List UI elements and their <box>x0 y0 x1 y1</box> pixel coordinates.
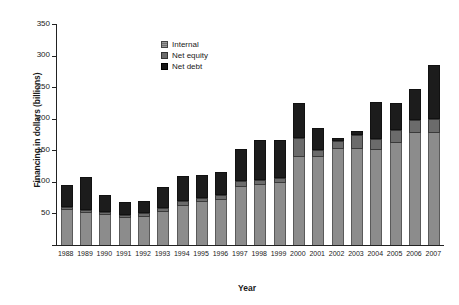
y-tick-label: 50 <box>41 208 50 217</box>
bar-1991 <box>119 202 131 245</box>
x-tick-label-2004: 2004 <box>366 250 385 257</box>
segment-internal <box>157 212 169 245</box>
segment-net-debt <box>99 195 111 213</box>
x-axis-title: Year <box>52 283 442 293</box>
segment-internal <box>196 202 208 245</box>
segment-net-debt <box>215 172 227 195</box>
bar-1988 <box>61 185 73 245</box>
segment-internal <box>215 200 227 245</box>
bar-2004 <box>370 102 382 245</box>
segment-net-equity <box>409 120 421 133</box>
bar-2005 <box>390 103 402 245</box>
x-tick-label-1995: 1995 <box>191 250 210 257</box>
legend-item-net-debt: Net debt <box>161 62 208 71</box>
segment-internal <box>177 206 189 245</box>
x-tick-label-1997: 1997 <box>230 250 249 257</box>
bar-2006 <box>409 89 421 245</box>
bar-2001 <box>312 128 324 245</box>
x-tick-label-2001: 2001 <box>308 250 327 257</box>
segment-internal <box>312 157 324 245</box>
segment-net-debt <box>254 140 266 180</box>
bar-1994 <box>177 176 189 245</box>
legend-label: Net debt <box>172 62 202 71</box>
net-debt-swatch-icon <box>161 63 168 70</box>
plot-area: 50100150200250300350 1988198919901991199… <box>56 24 444 246</box>
y-tick-label: 250 <box>37 82 50 91</box>
bar-1998 <box>254 140 266 245</box>
bar-2003 <box>351 131 363 245</box>
x-tick-label-2005: 2005 <box>385 250 404 257</box>
bar-1997 <box>235 149 247 245</box>
segment-internal <box>332 149 344 245</box>
segment-net-debt <box>409 89 421 120</box>
stacked-bar-chart-figure: Financing in dollars (billions) Year 501… <box>0 0 459 305</box>
internal-swatch-icon <box>161 41 168 48</box>
x-tick-label-1988: 1988 <box>56 250 75 257</box>
y-tick-label: 150 <box>37 145 50 154</box>
x-tick-label-1994: 1994 <box>172 250 191 257</box>
segment-net-equity <box>428 119 440 133</box>
segment-net-debt <box>119 202 131 215</box>
net-equity-swatch-icon <box>161 52 168 59</box>
segment-net-equity <box>351 135 363 150</box>
segment-net-debt <box>80 177 92 210</box>
segment-net-debt <box>274 140 286 178</box>
x-tick-label-1993: 1993 <box>153 250 172 257</box>
segment-net-equity <box>370 139 382 150</box>
segment-net-equity <box>390 130 402 143</box>
bar-1993 <box>157 187 169 245</box>
y-tick-label: 200 <box>37 113 50 122</box>
segment-net-debt <box>235 149 247 181</box>
segment-internal <box>99 215 111 245</box>
y-tick-label: 300 <box>37 50 50 59</box>
bar-1996 <box>215 172 227 245</box>
x-tick-label-1989: 1989 <box>75 250 94 257</box>
x-tick-label-1992: 1992 <box>133 250 152 257</box>
segment-internal <box>428 133 440 245</box>
segment-net-debt <box>138 201 150 212</box>
bar-group <box>57 24 444 245</box>
segment-net-debt <box>312 128 324 150</box>
bar-1999 <box>274 140 286 245</box>
x-tick-label-2000: 2000 <box>288 250 307 257</box>
segment-internal <box>293 157 305 245</box>
y-tick-label: 100 <box>37 176 50 185</box>
x-tick-label-1990: 1990 <box>95 250 114 257</box>
x-axis-line <box>56 245 444 246</box>
x-tick-label-2002: 2002 <box>327 250 346 257</box>
legend-label: Net equity <box>172 51 208 60</box>
segment-internal <box>409 133 421 245</box>
x-tick-label-1996: 1996 <box>211 250 230 257</box>
segment-net-debt <box>293 103 305 138</box>
segment-internal <box>274 183 286 245</box>
segment-internal <box>138 217 150 245</box>
segment-net-equity <box>332 141 344 149</box>
segment-internal <box>235 187 247 245</box>
segment-net-debt <box>196 175 208 198</box>
segment-net-debt <box>177 176 189 201</box>
x-tick-label-1998: 1998 <box>250 250 269 257</box>
segment-internal <box>119 218 131 245</box>
segment-internal <box>351 149 363 245</box>
segment-net-equity <box>293 138 305 157</box>
bar-1989 <box>80 177 92 245</box>
bar-2000 <box>293 103 305 245</box>
y-tick-mark <box>52 245 57 246</box>
segment-internal <box>254 185 266 245</box>
segment-internal <box>370 150 382 245</box>
bar-2002 <box>332 138 344 245</box>
segment-net-debt <box>61 185 73 207</box>
x-tick-label-2007: 2007 <box>424 250 443 257</box>
segment-net-debt <box>370 102 382 139</box>
segment-net-debt <box>428 65 440 119</box>
x-tick-label-1999: 1999 <box>269 250 288 257</box>
bar-2007 <box>428 65 440 245</box>
legend-label: Internal <box>172 40 199 49</box>
segment-internal <box>390 143 402 245</box>
segment-net-debt <box>390 103 402 130</box>
x-tick-label-2006: 2006 <box>404 250 423 257</box>
bar-1995 <box>196 175 208 245</box>
segment-internal <box>61 210 73 245</box>
x-tick-label-2003: 2003 <box>346 250 365 257</box>
segment-net-debt <box>157 187 169 208</box>
